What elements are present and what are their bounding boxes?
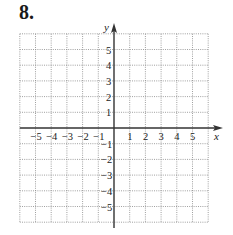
x-tick-label: 3 bbox=[159, 131, 164, 142]
x-tick-label: 4 bbox=[174, 131, 180, 142]
x-axis-label: x bbox=[213, 130, 219, 142]
y-axis-label: y bbox=[103, 21, 109, 33]
y-tick-label: 3 bbox=[106, 76, 111, 87]
y-tick-label: 2 bbox=[106, 92, 111, 103]
x-tick-label: −5 bbox=[31, 131, 42, 142]
x-tick-label: −2 bbox=[78, 131, 89, 142]
y-tick-label: −2 bbox=[101, 154, 112, 165]
y-tick-label: 1 bbox=[106, 107, 111, 118]
x-tick-label: 1 bbox=[127, 131, 132, 142]
y-tick-label: 5 bbox=[106, 45, 111, 56]
y-tick-label: 4 bbox=[106, 60, 112, 71]
coordinate-grid: −5−4−3−2−112345 54321−1−2−3−4−5 x y bbox=[0, 0, 233, 235]
y-tick-label: −1 bbox=[101, 139, 112, 150]
x-tick-labels: −5−4−3−2−112345 bbox=[31, 131, 196, 142]
x-tick-label: −4 bbox=[46, 131, 58, 142]
x-tick-label: 5 bbox=[190, 131, 195, 142]
y-tick-label: −4 bbox=[101, 186, 113, 197]
y-tick-label: −5 bbox=[101, 202, 112, 213]
y-tick-label: −3 bbox=[101, 170, 112, 181]
x-tick-label: 2 bbox=[143, 131, 148, 142]
x-tick-label: −3 bbox=[62, 131, 73, 142]
